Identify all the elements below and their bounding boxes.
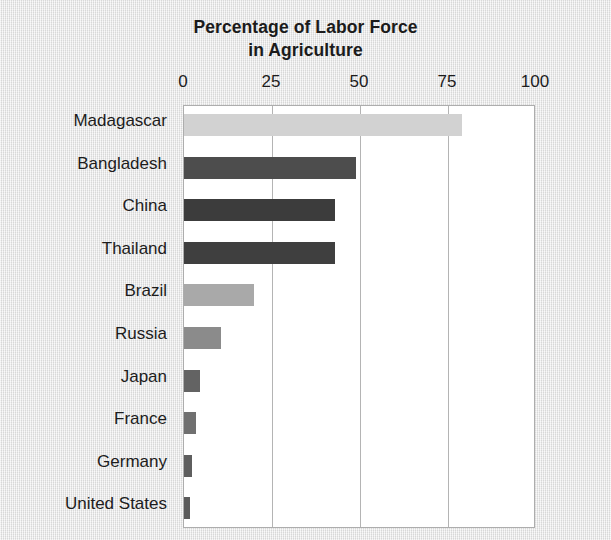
category-label-bangladesh: Bangladesh bbox=[0, 154, 176, 174]
x-tick-label-100: 100 bbox=[521, 72, 549, 92]
category-label-united-states: United States bbox=[0, 494, 176, 514]
bar-russia bbox=[184, 327, 221, 349]
bar-madagascar bbox=[184, 114, 462, 136]
x-tick-label-25: 25 bbox=[262, 72, 281, 92]
bar-united-states bbox=[184, 497, 190, 519]
chart-title-line-2: in Agriculture bbox=[0, 39, 611, 62]
category-axis-labels: MadagascarBangladeshChinaThailandBrazilR… bbox=[0, 105, 176, 528]
category-label-france: France bbox=[0, 409, 176, 429]
bar-thailand bbox=[184, 242, 335, 264]
bar-japan bbox=[184, 370, 200, 392]
category-label-brazil: Brazil bbox=[0, 281, 176, 301]
category-label-thailand: Thailand bbox=[0, 239, 176, 259]
category-label-russia: Russia bbox=[0, 324, 176, 344]
bar-germany bbox=[184, 455, 192, 477]
chart-title: Percentage of Labor Force in Agriculture bbox=[0, 16, 611, 62]
x-axis-tick-labels: 0255075100 bbox=[0, 72, 611, 96]
bar-france bbox=[184, 412, 196, 434]
bar-china bbox=[184, 199, 335, 221]
category-label-china: China bbox=[0, 196, 176, 216]
bar-bangladesh bbox=[184, 157, 356, 179]
chart-page: Percentage of Labor Force in Agriculture… bbox=[0, 0, 611, 540]
plot-area bbox=[183, 105, 535, 528]
x-tick-label-50: 50 bbox=[350, 72, 369, 92]
x-tick-label-0: 0 bbox=[178, 72, 187, 92]
category-label-madagascar: Madagascar bbox=[0, 111, 176, 131]
bar-brazil bbox=[184, 284, 254, 306]
bars-layer bbox=[184, 106, 534, 527]
category-label-germany: Germany bbox=[0, 452, 176, 472]
x-tick-label-75: 75 bbox=[438, 72, 457, 92]
chart-title-line-1: Percentage of Labor Force bbox=[193, 17, 417, 37]
category-label-japan: Japan bbox=[0, 367, 176, 387]
